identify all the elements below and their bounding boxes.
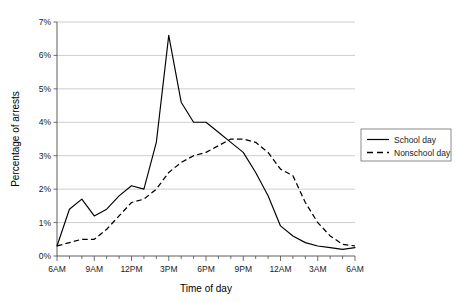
x-tick-label: 6AM <box>48 264 65 274</box>
y-axis-title: Percentage of arrests <box>10 91 21 187</box>
x-tick-label: 12PM <box>120 264 142 274</box>
y-tick-label: 4% <box>39 117 52 127</box>
y-tick-label: 5% <box>39 84 52 94</box>
x-tick-label: 6PM <box>197 264 214 274</box>
legend-label-nonschool-day: Nonschool day <box>394 148 451 158</box>
x-tick-label: 6AM <box>346 264 363 274</box>
y-tick-label: 2% <box>39 184 52 194</box>
chart-svg: 0%1%2%3%4%5%6%7% 6AM9AM12PM3PM6PM9PM12AM… <box>0 0 457 302</box>
x-tick-label: 9AM <box>86 264 103 274</box>
chart-legend: School day Nonschool day <box>361 129 451 161</box>
legend-label-school-day: School day <box>394 135 437 145</box>
x-tick-label: 12AM <box>269 264 291 274</box>
x-tick-label: 9PM <box>235 264 252 274</box>
y-tick-label: 6% <box>39 50 52 60</box>
arrests-by-time-line-chart: 0%1%2%3%4%5%6%7% 6AM9AM12PM3PM6PM9PM12AM… <box>0 0 457 302</box>
y-tick-label: 1% <box>39 218 52 228</box>
x-tick-label: 3AM <box>309 264 326 274</box>
y-tick-label: 3% <box>39 151 52 161</box>
y-tick-label: 0% <box>39 251 52 261</box>
y-tick-label: 7% <box>39 17 52 27</box>
x-tick-label: 3PM <box>160 264 177 274</box>
x-axis-title: Time of day <box>180 283 232 294</box>
